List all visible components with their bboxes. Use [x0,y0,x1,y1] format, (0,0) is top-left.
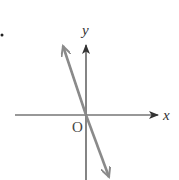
y-axis-label: y [80,22,89,38]
x-axis-label: x [162,107,170,123]
line-lower-half [86,115,109,177]
bullet-dot [1,34,4,37]
line-upper-half [63,46,86,115]
coordinate-diagram: y x O [0,0,179,180]
origin-label: O [72,119,83,135]
